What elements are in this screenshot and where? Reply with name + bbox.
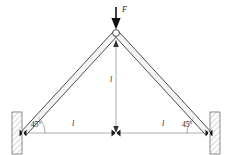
- height-dimension-line: [113, 40, 119, 133]
- angle-label-right: 45°: [182, 120, 193, 129]
- angle-label-left: 45°: [31, 120, 42, 129]
- truss-drawing: [0, 0, 231, 155]
- span-label-left: l: [72, 120, 74, 128]
- height-label: l: [110, 76, 112, 84]
- force-label: F: [122, 6, 127, 14]
- apex-pin-joint: [113, 30, 120, 37]
- force-arrow: [111, 7, 120, 30]
- truss-figure: F l l l 45° 45°: [0, 0, 231, 155]
- span-label-right: l: [162, 120, 164, 128]
- support-left: [12, 112, 27, 154]
- support-right: [206, 112, 221, 154]
